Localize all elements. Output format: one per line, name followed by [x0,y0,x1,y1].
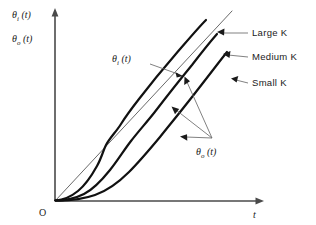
curve-large-k [56,20,207,201]
x-axis-label: t [253,209,256,220]
curve-medium-k [56,34,218,201]
x-axis-arrowhead [256,198,265,205]
axes-group [52,8,264,204]
legend-leader-small-k [236,80,248,83]
legend-label-large-k: Large K [252,27,288,38]
y-axis-label-theta-i: θi (t) [12,9,31,23]
legend-label-small-k: Small K [252,77,287,88]
legend-leader-medium-k [228,55,248,57]
y-axis-label-theta-o: θo (t) [12,33,33,47]
input-ramp-group [56,11,233,201]
figure-container: θi (t) θo (t) θi (t) θo (t) Large K Medi… [0,0,316,225]
annotation-output-theta-o: θo (t) [196,146,217,160]
legend-arrowhead-small-k [231,76,238,83]
curve-small-k [56,52,228,201]
origin-label: O [39,207,46,218]
leader-output-labels [172,77,213,141]
ramp-response-figure: θi (t) θo (t) θi (t) θo (t) Large K Medi… [0,0,316,225]
legend-label-medium-k: Medium K [252,51,298,62]
annotation-input-theta-i: θi (t) [112,53,131,67]
leader-line-input [150,64,178,74]
leader-arrowhead-output-large [184,77,190,86]
legend-leaders [217,29,248,83]
leader-line-output-large [187,82,212,138]
y-axis-arrowhead [52,8,59,17]
leader-line-output-medium [176,110,212,138]
leader-line-output-small [186,137,212,138]
legend-arrowhead-large-k [217,29,225,36]
leader-arrowhead-output-small [180,134,187,141]
input-ramp-line [56,11,233,201]
